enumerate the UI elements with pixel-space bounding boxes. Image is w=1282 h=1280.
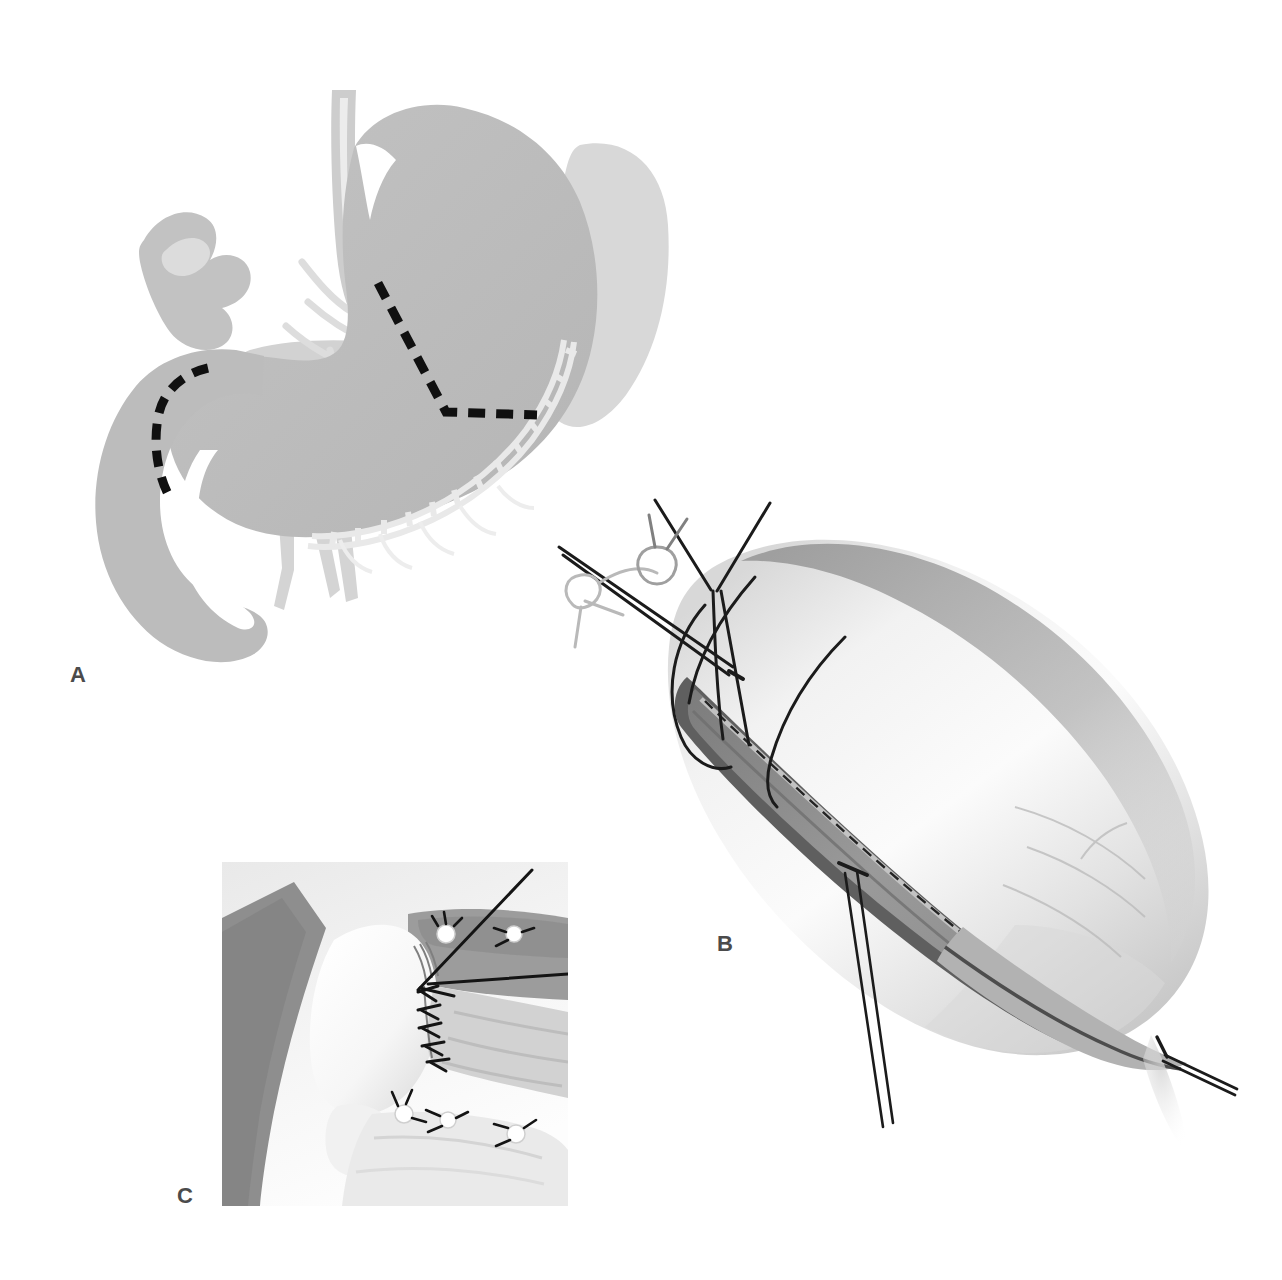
distal-suture-tail-upper xyxy=(1165,1055,1237,1089)
liver-segment-shape xyxy=(139,212,251,350)
panel-a-label: A xyxy=(70,664,86,686)
suture-pledget xyxy=(395,1105,413,1123)
stay-suture-y-left-arm xyxy=(655,500,711,590)
panel-c-label: C xyxy=(177,1185,193,1207)
pale-suture-knot-mid xyxy=(638,547,676,584)
panel-b-label: B xyxy=(717,933,733,955)
panel-c-content xyxy=(222,862,568,1206)
distal-suture-tail-lower xyxy=(1163,1061,1235,1095)
pale-suture-tail-left-b xyxy=(575,607,581,647)
panel-c-anastomosis-inset xyxy=(222,862,568,1206)
panel-b-svg xyxy=(545,455,1275,1165)
pale-suture-tail-mid-a xyxy=(649,515,655,547)
panel-c-svg xyxy=(222,862,568,1206)
figure-root: A xyxy=(0,0,1282,1280)
pale-suture-loop-left xyxy=(566,575,600,608)
pale-suture-tail-left-a xyxy=(585,601,623,615)
panel-b-gastrotomy-illustration xyxy=(545,455,1275,1165)
suture-pledget xyxy=(437,925,455,943)
